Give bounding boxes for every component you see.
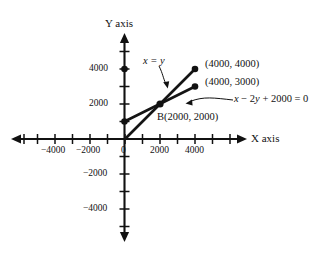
x-axis-right-arrowhead [237, 134, 247, 143]
point-intersection-B [156, 100, 163, 107]
y-tick-label-4000: 4000 [89, 64, 108, 74]
point-4000-4000 [192, 66, 199, 73]
intersection-point-label: B(2000, 2000) [157, 112, 218, 123]
point-y-intercept-1000 [121, 118, 128, 125]
callout-arrowhead-equation [186, 100, 193, 106]
point-4000-3000 [192, 83, 199, 90]
x-axis-title: X axis [251, 133, 279, 144]
callout-arrowhead-x-equals-y [163, 81, 169, 88]
point-label-4000-3000: (4000, 3000) [205, 77, 259, 88]
eq-term-minus2: − 2 [239, 93, 255, 104]
eq-term-tail: + 2000 = 0 [260, 93, 309, 104]
equation-label-line-b: x − 2y + 2000 = 0 [234, 94, 308, 105]
callout-x-equals-y [159, 66, 169, 89]
y-axis-title: Y axis [105, 18, 133, 29]
plot-svg [0, 0, 334, 256]
y-tick-label-2000: 2000 [89, 99, 108, 109]
coordinate-plot-figure: Y axis X axis 4000 2000 −2000 −4000 −400… [0, 0, 334, 256]
x-tick-label-2000: 2000 [150, 146, 169, 156]
equation-label-x-equals-y: x = y [143, 56, 165, 67]
y-tick-label-neg4000: −4000 [83, 204, 107, 214]
y-axis-top-arrowhead [120, 33, 129, 43]
y-axis-bottom-arrowhead [120, 232, 129, 242]
point-label-4000-4000: (4000, 4000) [205, 59, 259, 70]
x-tick-label-neg2000: −2000 [76, 146, 100, 156]
x-axis-left-arrowhead [11, 134, 21, 143]
callout-line-x-equals-y [159, 66, 166, 84]
callout-line-equation [186, 98, 234, 106]
x-tick-label-4000: 4000 [185, 146, 204, 156]
x-tick-label-neg4000: −4000 [41, 146, 65, 156]
origin-label: 0 [121, 146, 126, 156]
callout-line-equation-path [190, 98, 233, 102]
y-tick-label-neg2000: −2000 [83, 169, 107, 179]
point-y-4000-marker [121, 66, 128, 73]
